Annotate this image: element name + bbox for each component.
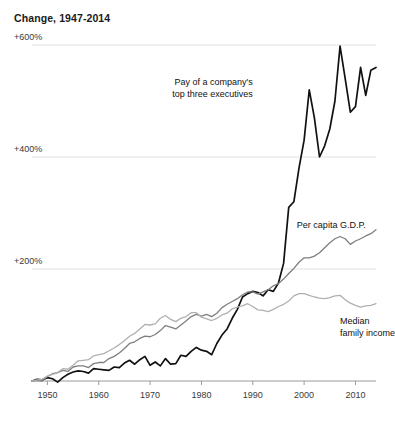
y-tick-label: +600% bbox=[14, 32, 42, 42]
x-tick-label: 1950 bbox=[37, 390, 57, 400]
series-line-2 bbox=[32, 230, 376, 381]
x-axis-ticks bbox=[47, 381, 355, 385]
annotation-line: Median bbox=[340, 315, 395, 327]
y-tick-label: +200% bbox=[14, 256, 42, 266]
annotation-exec-pay: Pay of a company'stop three executives bbox=[172, 76, 253, 100]
annotation-gdp: Per capita G.D.P. bbox=[297, 219, 366, 231]
annotation-line: family income bbox=[340, 327, 395, 339]
annotation-line: Per capita G.D.P. bbox=[297, 219, 366, 231]
annotation-line: Pay of a company's bbox=[172, 76, 253, 88]
series-line-3 bbox=[32, 294, 376, 381]
x-tick-label: 1960 bbox=[89, 390, 109, 400]
annotation-line: top three executives bbox=[172, 88, 253, 100]
y-tick-label: +400% bbox=[14, 144, 42, 154]
x-tick-label: 2000 bbox=[294, 390, 314, 400]
annotation-median-income: Medianfamily income bbox=[340, 315, 395, 339]
x-tick-label: 2010 bbox=[345, 390, 365, 400]
x-tick-label: 1970 bbox=[140, 390, 160, 400]
x-tick-label: 1990 bbox=[243, 390, 263, 400]
x-tick-label: 1980 bbox=[191, 390, 211, 400]
